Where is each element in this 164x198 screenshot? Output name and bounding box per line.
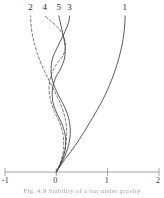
curve-label-4: 4 bbox=[43, 3, 48, 12]
x-tick-label-1: 1 bbox=[105, 177, 109, 185]
curve-label-1: 1 bbox=[123, 3, 128, 12]
x-axis bbox=[5, 168, 159, 176]
curve-group bbox=[31, 16, 125, 172]
curve-1 bbox=[56, 16, 125, 172]
curve-3 bbox=[51, 16, 70, 172]
curve-label-5: 5 bbox=[56, 3, 61, 12]
x-tick-label-2: 2 bbox=[156, 177, 160, 185]
mode-shape-plot bbox=[0, 0, 164, 180]
x-tick-label-0: 0 bbox=[53, 177, 57, 185]
curve-label-2: 2 bbox=[28, 3, 33, 12]
figure-container: 12345 -1012 Fig. 4.9 Stability of a bar … bbox=[0, 0, 164, 198]
figure-caption-text: Fig. 4.9 Stability of a bar under gravit… bbox=[0, 187, 164, 195]
curve-4 bbox=[45, 16, 66, 172]
figure-caption: Fig. 4.9 Stability of a bar under gravit… bbox=[0, 187, 164, 198]
curve-label-3: 3 bbox=[67, 3, 72, 12]
x-tick-label-neg1: -1 bbox=[2, 177, 9, 185]
